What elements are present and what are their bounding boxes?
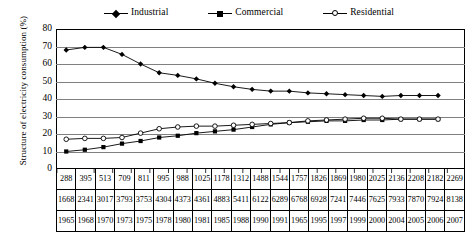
data-point (213, 124, 218, 129)
y-tick-label: 20 (28, 129, 52, 139)
y-tick-label: 50 (28, 77, 52, 87)
data-point (249, 87, 254, 92)
data-point (194, 131, 198, 135)
table-cell: 1981 (192, 211, 211, 232)
data-point (82, 45, 87, 50)
data-point (64, 137, 69, 142)
data-point (435, 93, 440, 98)
table-cell: 1970 (95, 211, 114, 232)
table-cell: 4883 (212, 190, 231, 211)
data-point (305, 90, 310, 95)
data-point (231, 128, 235, 132)
data-point (417, 93, 422, 98)
data-point (83, 148, 87, 152)
legend-item-residential: Residential (323, 8, 394, 18)
y-axis-title: Structure of electricity consumption (%) (19, 6, 28, 176)
table-cell: 1965 (290, 211, 309, 232)
table-cell: 2208 (406, 169, 425, 190)
data-point (120, 142, 124, 146)
table-cell: 7870 (406, 190, 425, 211)
data-point (64, 47, 69, 52)
table-cell: 2269 (445, 169, 465, 190)
table-cell: 1965 (57, 211, 76, 232)
commercial-legend-marker (208, 9, 232, 18)
data-point (157, 126, 162, 131)
table-cell: 7933 (387, 190, 406, 211)
table-cell: 8138 (445, 190, 465, 211)
table-cell: 4361 (192, 190, 211, 211)
table-cell: 1980 (173, 211, 192, 232)
legend-label-industrial: Industrial (131, 8, 168, 18)
data-point (250, 122, 255, 127)
table-cell: 995 (154, 169, 173, 190)
table-cell: 1869 (328, 169, 347, 190)
data-point (213, 129, 217, 133)
table-cell: 7625 (367, 190, 386, 211)
table-cell: 3753 (134, 190, 153, 211)
industrial-legend-marker (104, 9, 128, 18)
y-tick-label: 0 (28, 164, 52, 174)
data-point (231, 123, 236, 128)
data-point (175, 125, 180, 130)
table-cell: 3793 (115, 190, 134, 211)
data-point (287, 88, 292, 93)
table-cell: 811 (134, 169, 153, 190)
table-cell: 1975 (134, 211, 153, 232)
table-cell: 1980 (348, 169, 367, 190)
table-cell: 2006 (426, 211, 445, 232)
table-cell: 1968 (76, 211, 95, 232)
table-cell: 1978 (154, 211, 173, 232)
table-cell: 288 (57, 169, 76, 190)
legend-label-residential: Residential (350, 8, 394, 18)
table-cell: 513 (95, 169, 114, 190)
table-cell: 1997 (328, 211, 347, 232)
data-table-wrap: 2883955137098119959881025117813121488154… (56, 169, 465, 231)
data-point (380, 116, 385, 121)
table-cell: 2025 (367, 169, 386, 190)
table-cell: 5411 (231, 190, 250, 211)
table-cell: 7241 (328, 190, 347, 211)
chart-figure: Industrial Commercial Residential Struct… (0, 0, 471, 246)
data-table: 2883955137098119959881025117813121488154… (56, 169, 465, 232)
table-cell: 1990 (251, 211, 270, 232)
data-point (342, 92, 347, 97)
legend-item-industrial: Industrial (104, 8, 168, 18)
data-point (101, 45, 106, 50)
table-cell: 1988 (231, 211, 250, 232)
table-cell: 1312 (231, 169, 250, 190)
table-cell: 2000 (367, 211, 386, 232)
data-point (176, 134, 180, 138)
table-cell: 2341 (76, 190, 95, 211)
table-cell: 1488 (251, 169, 270, 190)
table-cell: 2004 (387, 211, 406, 232)
data-point (194, 124, 199, 129)
table-cell: 2182 (426, 169, 445, 190)
table-cell: 1025 (192, 169, 211, 190)
data-point (120, 135, 125, 140)
table-cell: 1991 (270, 211, 289, 232)
row-commercial-values: 2883955137098119959881025117813121488154… (57, 169, 465, 190)
data-point (231, 84, 236, 89)
residential-legend-marker (323, 9, 347, 18)
data-point (361, 116, 366, 121)
data-point (287, 120, 292, 125)
y-tick-label: 60 (28, 59, 52, 69)
data-point (398, 93, 403, 98)
table-cell: 1999 (348, 211, 367, 232)
y-tick-label: 30 (28, 112, 52, 122)
table-cell: 3017 (95, 190, 114, 211)
table-cell: 2136 (387, 169, 406, 190)
row-years: 1965196819701973197519781980198119851988… (57, 211, 465, 232)
data-point (138, 61, 143, 66)
table-cell: 6122 (251, 190, 270, 211)
table-cell: 709 (115, 169, 134, 190)
data-point (83, 136, 88, 141)
data-point (306, 119, 311, 124)
data-point (343, 117, 348, 122)
y-tick-label: 40 (28, 94, 52, 104)
table-cell: 7446 (348, 190, 367, 211)
table-cell: 4304 (154, 190, 173, 211)
y-tick-label: 70 (28, 42, 52, 52)
series-layer (56, 29, 465, 169)
legend-label-commercial: Commercial (235, 8, 283, 18)
